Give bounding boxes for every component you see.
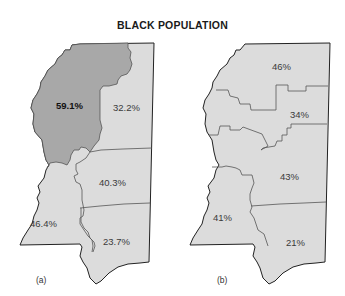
label-b-central: 43%	[280, 171, 299, 182]
label-b-southeast: 21%	[286, 237, 305, 248]
label-a-northeast: 32.2%	[113, 102, 140, 113]
label-b-northcentral: 34%	[290, 109, 309, 120]
caption-b: (b)	[217, 275, 227, 285]
label-b-north: 46%	[272, 61, 291, 72]
maps-canvas	[0, 0, 345, 296]
map-b-state-outline	[190, 43, 330, 284]
label-a-southwest: 46.4%	[30, 218, 57, 229]
label-b-southwest: 41%	[213, 212, 232, 223]
label-a-delta: 59.1%	[56, 100, 83, 111]
label-a-southeast: 23.7%	[103, 236, 130, 247]
caption-a: (a)	[36, 275, 46, 285]
map-b	[190, 43, 330, 284]
map-a	[20, 43, 154, 284]
label-a-central: 40.3%	[99, 177, 126, 188]
